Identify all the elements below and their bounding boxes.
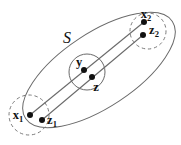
point-z1-label: z1	[47, 113, 57, 129]
set-s-label: S	[63, 29, 71, 46]
point-x1-label: x1	[13, 108, 24, 124]
point-z2-dot	[140, 32, 146, 38]
figure-canvas: S x1 z1 y z x2 z2	[0, 0, 181, 145]
convexity-diagram: S x1 z1 y z x2 z2	[0, 0, 181, 145]
set-s-ellipse	[5, 0, 181, 145]
segment-x1-x2	[30, 22, 144, 115]
point-z-label: z	[93, 80, 99, 94]
point-y-label: y	[76, 55, 83, 69]
point-x2-label: x2	[141, 7, 152, 23]
point-z2-label: z2	[149, 23, 159, 39]
point-z1-dot	[39, 117, 45, 123]
point-x1-dot	[27, 112, 33, 118]
